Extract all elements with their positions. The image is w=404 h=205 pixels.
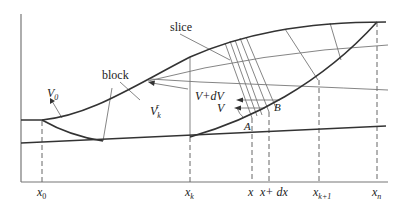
upper-reference-line (148, 45, 388, 81)
slice-line-4 (240, 38, 269, 112)
block-boundary-2 (285, 29, 318, 80)
tick-x-dx: x+ dx (259, 185, 288, 199)
tick-xk1: xk+1 (312, 185, 331, 201)
right-slip-surface (190, 22, 377, 137)
slice-line-2 (230, 41, 257, 116)
labels: slice block V0 Vkr V+dV V A B (47, 20, 281, 132)
slope-stability-diagram: slice block V0 Vkr V+dV V A B x0 xk x x+… (0, 0, 404, 205)
thin-lines (52, 23, 388, 141)
tick-xn: xn (371, 185, 381, 201)
block-boundary-3 (330, 23, 341, 60)
left-slip-surface (42, 120, 103, 141)
tick-xk: xk (184, 185, 194, 201)
slice-pointer (180, 34, 230, 60)
arrowhead-dv-icon (236, 98, 243, 103)
tick-x0: x0 (36, 185, 46, 201)
label-v: V (217, 101, 226, 115)
label-v0: V0 (47, 86, 58, 102)
label-point-a: A (243, 120, 251, 132)
block-boundary (103, 88, 112, 141)
force-vk-line (152, 83, 188, 89)
arrowhead-vk-icon (148, 81, 155, 87)
v0-pointer (52, 101, 62, 118)
slice-line-3 (235, 40, 262, 115)
diagram-svg: slice block V0 Vkr V+dV V A B x0 xk x x+… (0, 0, 404, 205)
x-tick-labels: x0 xk x x+ dx xk+1 xn (36, 185, 381, 201)
ground-surface (21, 22, 386, 120)
label-vk: Vkr (150, 102, 161, 120)
tick-x: x (247, 185, 254, 199)
label-point-b: B (274, 101, 281, 113)
label-block: block (102, 68, 129, 82)
label-slice: slice (170, 20, 192, 34)
